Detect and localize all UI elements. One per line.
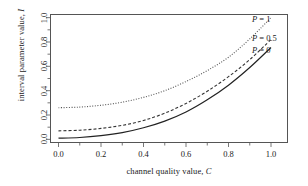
x-tick-label: 0.4 — [138, 149, 149, 159]
legend-p0-value: = 0 — [257, 45, 270, 55]
series-line-2 — [59, 47, 272, 138]
legend-p05-value: = 0.5 — [257, 33, 277, 43]
y-axis-title: interval parameter value, I — [16, 0, 26, 130]
y-tick-label: 1.0 — [39, 10, 49, 26]
legend-p1-value: = 1 — [257, 14, 270, 24]
y-axis-variable: I — [16, 9, 26, 12]
x-axis-ticks — [59, 143, 272, 147]
figure: 0.00.20.40.60.81.0 0.00.20.40.60.81.0 in… — [0, 0, 308, 186]
x-tick-label: 0.8 — [223, 149, 234, 159]
y-tick-label: 0.0 — [39, 131, 49, 147]
x-tick-label: 0.0 — [53, 149, 64, 159]
legend-item-p05: P = 0.5 — [252, 33, 277, 43]
series-lines — [59, 18, 272, 138]
legend-item-p0: P = 0 — [252, 45, 271, 55]
y-tick-label: 0.8 — [39, 34, 49, 50]
x-tick-label: 0.6 — [181, 149, 192, 159]
legend-item-p1: P = 1 — [252, 14, 271, 24]
x-axis-title: channel quality value, C — [50, 166, 288, 176]
x-axis-variable: C — [206, 166, 212, 176]
x-tick-label: 0.2 — [96, 149, 107, 159]
y-tick-label: 0.4 — [39, 83, 49, 99]
y-tick-label: 0.2 — [39, 107, 49, 123]
y-tick-label: 0.6 — [39, 58, 49, 74]
x-tick-label: 1.0 — [266, 149, 277, 159]
series-line-1 — [59, 40, 272, 131]
series-line-0 — [59, 18, 272, 108]
